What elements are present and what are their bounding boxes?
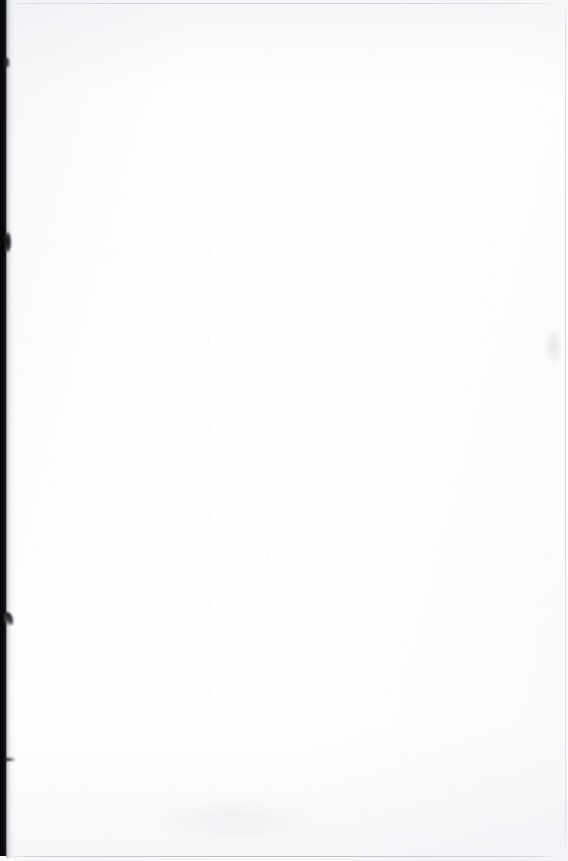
lower-left-smudge xyxy=(150,800,320,842)
edge-mark-lower-tick xyxy=(3,758,16,761)
left-scan-border-falloff xyxy=(6,0,15,858)
right-margin-smudge xyxy=(545,330,561,364)
edge-mark-upper-nick xyxy=(4,58,10,67)
scanned-page xyxy=(0,0,568,861)
right-rule xyxy=(565,2,566,858)
bottom-rule xyxy=(8,856,560,857)
paper-tone-wash xyxy=(0,0,568,861)
edge-mark-upper-blob xyxy=(5,232,11,252)
top-rule xyxy=(10,3,558,4)
